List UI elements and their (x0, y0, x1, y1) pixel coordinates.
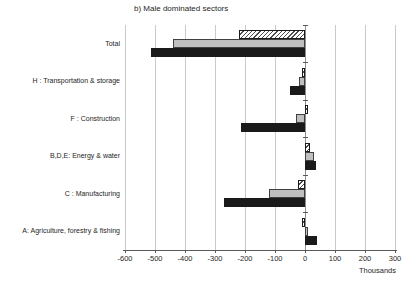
x-tick-label: -100 (260, 254, 290, 263)
category-label: H : Transportation & storage (0, 76, 120, 86)
x-axis-tick (275, 250, 276, 253)
x-tick-label: 300 (380, 254, 410, 263)
category-label: C : Manufacturing (0, 189, 120, 199)
bar-gray-3 (305, 152, 314, 161)
bar-chart-figure: b) Male dominated sectors Thousands -600… (0, 0, 410, 287)
gridline (185, 25, 186, 250)
x-axis-tick (215, 250, 216, 253)
x-axis-tick (155, 250, 156, 253)
category-label: F : Construction (0, 114, 120, 124)
x-axis-tick (185, 250, 186, 253)
category-axis-tick (303, 25, 308, 26)
x-tick-label: -300 (200, 254, 230, 263)
bar-hatched-2 (305, 105, 308, 114)
bar-gray-1 (299, 77, 305, 86)
x-tick-label: 200 (350, 254, 380, 263)
bar-gray-5 (305, 227, 308, 236)
x-axis-tick (395, 250, 396, 253)
bar-gray-0 (173, 39, 305, 48)
category-label: Total (0, 39, 120, 49)
category-label: A: Agriculture, forestry & fishing (0, 226, 120, 236)
x-axis-unit-label: Thousands (330, 266, 396, 275)
gridline (335, 25, 336, 250)
bar-black-0 (151, 48, 306, 57)
bar-gray-4 (269, 189, 305, 198)
x-tick-label: -200 (230, 254, 260, 263)
bar-hatched-1 (302, 68, 305, 77)
x-tick-label: -500 (140, 254, 170, 263)
bar-hatched-5 (302, 218, 305, 227)
x-axis-tick (125, 250, 126, 253)
category-axis-tick (303, 62, 308, 63)
bar-black-2 (241, 123, 306, 132)
gridline (155, 25, 156, 250)
category-axis-tick (303, 212, 308, 213)
x-axis-tick (335, 250, 336, 253)
gridline (245, 25, 246, 250)
bar-hatched-4 (298, 180, 306, 189)
gridline (275, 25, 276, 250)
x-axis-tick (365, 250, 366, 253)
bar-black-3 (305, 161, 316, 170)
category-axis-tick (303, 175, 308, 176)
gridline (215, 25, 216, 250)
x-tick-label: 100 (320, 254, 350, 263)
x-tick-label: -600 (110, 254, 140, 263)
x-tick-label: -400 (170, 254, 200, 263)
gridline (125, 25, 126, 250)
bar-hatched-3 (305, 143, 310, 152)
x-tick-label: 0 (290, 254, 320, 263)
gridline (395, 25, 396, 250)
gridline (365, 25, 366, 250)
bar-black-5 (305, 236, 317, 245)
bar-gray-2 (296, 114, 305, 123)
bar-black-1 (290, 86, 305, 95)
category-axis-tick (303, 250, 308, 251)
chart-title: b) Male dominated sectors (134, 4, 228, 13)
category-label: B,D,E: Energy & water (0, 151, 120, 161)
category-axis-tick (303, 100, 308, 101)
bar-hatched-0 (239, 30, 305, 39)
bar-black-4 (224, 198, 305, 207)
x-axis-line (123, 250, 397, 251)
x-axis-tick (245, 250, 246, 253)
category-axis-tick (303, 137, 308, 138)
